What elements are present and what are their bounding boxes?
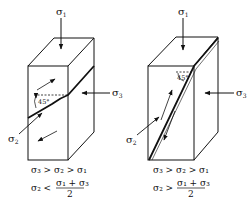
left-angle-label: 45° [38,98,50,106]
left-sigma1-label: σ1 [56,6,67,18]
left-condition-1: σ₃ > σ₂ > σ₁ [31,165,87,175]
right-panel: 45° σ1 σ3 σ2 σ₃ > σ₂ > σ₁ σ₂ > σ₁ + σ₃ 2 [126,6,247,199]
right-sigma3-label: σ3 [236,87,247,99]
svg-text:σ₁ + σ₃: σ₁ + σ₃ [56,178,89,188]
left-sigma2-label: σ2 [8,133,19,145]
left-fracture-plane [28,66,94,118]
svg-text:2: 2 [67,189,73,199]
right-angle-label: 45° [177,74,189,82]
svg-text:σ₂ <: σ₂ < [31,183,51,193]
left-condition-2: σ₂ < σ₁ + σ₃ 2 [31,178,89,199]
right-sigma2-label: σ2 [126,134,137,146]
svg-text:σ₂ >: σ₂ > [153,183,173,193]
svg-text:σ₁ + σ₃: σ₁ + σ₃ [177,178,210,188]
right-fracture-plane [149,38,218,160]
right-sigma1-label: σ1 [178,6,189,18]
fracture-diagram: 45° σ1 σ3 σ2 σ₃ > σ₂ > σ₁ σ₂ < σ₁ + σ₃ 2 [0,0,252,205]
svg-text:2: 2 [188,189,194,199]
left-panel: 45° σ1 σ3 σ2 σ₃ > σ₂ > σ₁ σ₂ < σ₁ + σ₃ 2 [8,6,123,199]
left-shear-arrow-upper [37,79,55,90]
right-condition-1: σ₃ > σ₂ > σ₁ [153,165,209,175]
left-sigma3-label: σ3 [112,87,123,99]
left-shear-arrow-lower [38,131,57,141]
right-condition-2: σ₂ > σ₁ + σ₃ 2 [153,178,210,199]
